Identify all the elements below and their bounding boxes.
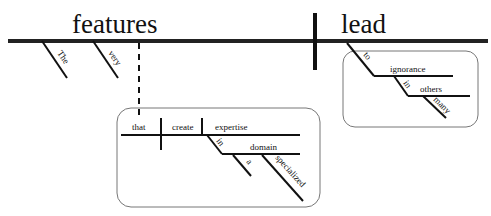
verb-word: lead bbox=[341, 9, 386, 39]
preposition-to: to bbox=[361, 50, 373, 62]
clause-object: expertise bbox=[215, 122, 247, 132]
prep-to-line bbox=[347, 43, 374, 76]
clause-verb: create bbox=[172, 122, 193, 132]
modifier-many: many bbox=[432, 94, 454, 116]
clause-subject: that bbox=[132, 122, 146, 132]
sentence-diagram: features lead The very that create exper… bbox=[0, 0, 491, 216]
clause-prep-object: domain bbox=[250, 142, 277, 152]
modifier-specialized: specialized bbox=[274, 153, 309, 190]
prep-object-ignorance: ignorance bbox=[390, 64, 425, 74]
modifier-a: a bbox=[244, 157, 254, 166]
subject-word: features bbox=[72, 9, 157, 39]
modifier-line-a bbox=[233, 155, 251, 176]
sub-prep-object-others: others bbox=[420, 84, 442, 94]
